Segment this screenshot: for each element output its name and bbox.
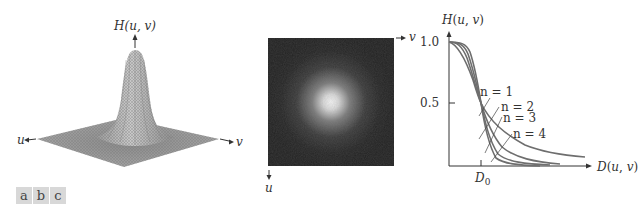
panel-a-perspective-plot: H(u, v) u — [0, 0, 230, 180]
panel-labels: a b c — [16, 187, 66, 204]
legend-n3: n = 3 — [503, 111, 536, 125]
z-axis-label: H(u, v) — [113, 19, 156, 33]
panel-label-c: c — [50, 187, 66, 204]
image-v-axis-label: v — [409, 30, 416, 44]
u-axis-arrow — [24, 138, 29, 143]
y-tick-1: 1.0 — [420, 35, 439, 49]
image-u-axis-arrow — [267, 175, 272, 180]
v-axis-arrow — [229, 140, 234, 145]
panel-label-a: a — [16, 187, 32, 204]
x-axis-label: D(u, v) — [596, 160, 638, 174]
u-axis-label: u — [17, 133, 25, 147]
legend-n4: n = 4 — [513, 127, 546, 141]
y-axis-label: H(u, v) — [441, 13, 484, 27]
panel-label-b: b — [33, 187, 49, 204]
perspective-mesh: H(u, v) u — [0, 0, 230, 180]
v-axis-label: v — [236, 135, 243, 149]
x-tick-d0: D0 — [474, 171, 491, 185]
panel-a-v-label-wrap: v — [228, 133, 248, 153]
panel-c-cross-section-chart: H(u, v) 1.0 0.5 D0 D(u, v) n = 1 n = 2 n… — [420, 0, 642, 185]
panel-b-filter-image: u — [260, 30, 410, 195]
legend-n1: n = 1 — [480, 85, 513, 99]
y-tick-0-5: 0.5 — [420, 96, 439, 110]
image-u-axis-label: u — [265, 181, 273, 195]
image-v-axis-arrow — [401, 36, 406, 41]
